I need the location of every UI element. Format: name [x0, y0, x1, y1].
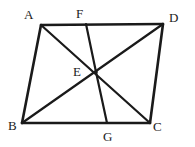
- vertex-label-B: B: [8, 119, 17, 132]
- vertex-label-F: F: [76, 7, 83, 20]
- side-AB: [22, 25, 41, 123]
- point-layer: [94, 70, 98, 74]
- diagonal-BD: [22, 24, 163, 123]
- segment-layer: [22, 24, 163, 123]
- vertex-label-C: C: [153, 120, 162, 133]
- cevian-FE: [86, 24, 96, 72]
- side-AD: [41, 24, 163, 25]
- vertex-label-G: G: [103, 130, 112, 143]
- intersection-point-E: [94, 70, 98, 74]
- side-DC: [150, 24, 163, 123]
- geometry-figure: A F D E B G C: [0, 0, 195, 147]
- figure-canvas: [0, 0, 195, 147]
- vertex-label-A: A: [24, 8, 33, 21]
- vertex-label-D: D: [169, 11, 178, 24]
- vertex-label-E: E: [73, 65, 81, 78]
